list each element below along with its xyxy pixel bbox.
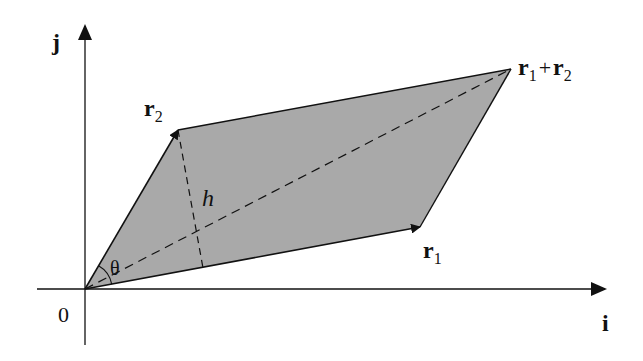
origin-label: 0 (58, 302, 69, 327)
j-axis-label: j (51, 29, 60, 55)
r2-label: r2 (144, 95, 163, 125)
height-label: h (202, 185, 214, 211)
theta-label: θ (110, 257, 120, 279)
parallelogram-diagram: j i 0 r2 r1 r1+r2 h θ (0, 0, 643, 361)
i-axis-label: i (602, 310, 609, 336)
sum-label: r1+r2 (518, 54, 572, 84)
r1-label: r1 (423, 237, 442, 267)
